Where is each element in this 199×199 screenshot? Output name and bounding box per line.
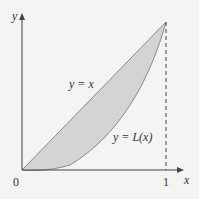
lorenz-diagram: y x 0 1 y = x y = L(x) <box>0 0 199 199</box>
y-axis-arrow-icon <box>19 13 25 20</box>
x-axis-label: x <box>183 173 190 187</box>
equality-line-label: y = x <box>68 77 94 91</box>
origin-label: 0 <box>13 175 19 189</box>
y-axis-label: y <box>11 9 18 23</box>
x-tick-label: 1 <box>163 175 169 189</box>
lorenz-curve-label: y = L(x) <box>112 130 152 144</box>
x-axis-arrow-icon <box>177 167 184 173</box>
